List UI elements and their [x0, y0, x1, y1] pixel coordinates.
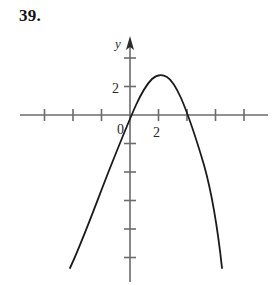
parabola-graph: y 2 0 2 — [0, 0, 273, 285]
x-axis-tick-label-2: 2 — [153, 125, 160, 140]
y-axis-label: y — [113, 36, 121, 51]
figure-page: 39. y 2 — [0, 0, 273, 285]
y-axis-tick-label-2: 2 — [112, 81, 119, 96]
origin-label-0: 0 — [117, 122, 124, 137]
parabola-curve — [70, 75, 222, 268]
